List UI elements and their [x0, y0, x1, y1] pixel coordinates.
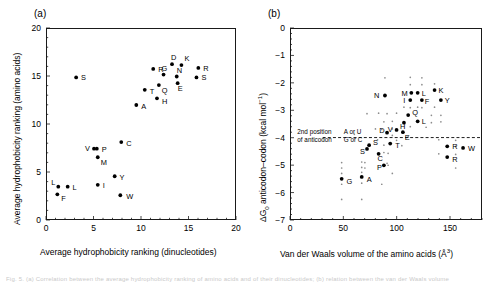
panel-b-y-axis-title: ΔG0 anticodon–codon (kcal mol−1)	[256, 93, 270, 222]
x-tick-label: 0	[44, 223, 49, 233]
panel-a: (a) SRDKRGNSEQTHACVPMYILLFW 051015200510…	[0, 0, 248, 288]
x-tick-label: 20	[231, 223, 241, 233]
panel-b: (b) NMLKIFYQHLVEDTSSCRWRPGA2nd positiono…	[246, 0, 495, 288]
y-tick-label: 10	[32, 119, 42, 129]
y-tick-label: −7	[275, 215, 285, 225]
y-tick-label: 20	[32, 23, 42, 33]
y-tick-label: 0	[36, 215, 41, 225]
x-tick-label: 50	[339, 223, 349, 233]
y-tick-label: 0	[280, 23, 285, 33]
panel-b-axes: −7−6−5−4−3−2−10050100150	[246, 0, 495, 288]
panel-a-y-axis-title: Average hydrophobicity ranking (amino ac…	[12, 53, 22, 225]
x-tick-label: 0	[288, 223, 293, 233]
y-tick-label: 5	[36, 167, 41, 177]
x-tick-label: 15	[184, 223, 194, 233]
y-tick-label: −3	[275, 105, 285, 115]
y-tick-label: −6	[275, 188, 285, 198]
y-tick-label: −4	[275, 133, 285, 143]
panel-a-axes: 0510152005101520	[0, 0, 248, 288]
x-tick-label: 10	[136, 223, 146, 233]
x-tick-label: 100	[390, 223, 404, 233]
y-tick-label: −5	[275, 160, 285, 170]
panel-b-x-axis-title: Van der Waals volume of the amino acids …	[280, 247, 453, 259]
y-tick-label: 15	[32, 71, 42, 81]
panel-b-y-axis-title-text: ΔG0 anticodon–codon (kcal mol−1)	[258, 93, 268, 222]
x-tick-label: 150	[443, 223, 457, 233]
panel-b-x-axis-title-text: Van der Waals volume of the amino acids …	[280, 249, 453, 259]
x-tick-label: 5	[91, 223, 96, 233]
y-tick-label: −2	[275, 78, 285, 88]
y-tick-label: −1	[275, 50, 285, 60]
figure-caption-partial: Fig. 5. (a) Correlation between the aver…	[6, 276, 489, 284]
figure-root: (a) SRDKRGNSEQTHACVPMYILLFW 051015200510…	[0, 0, 495, 288]
panel-a-x-axis-title: Average hydrophobicity ranking (dinucleo…	[40, 247, 217, 257]
